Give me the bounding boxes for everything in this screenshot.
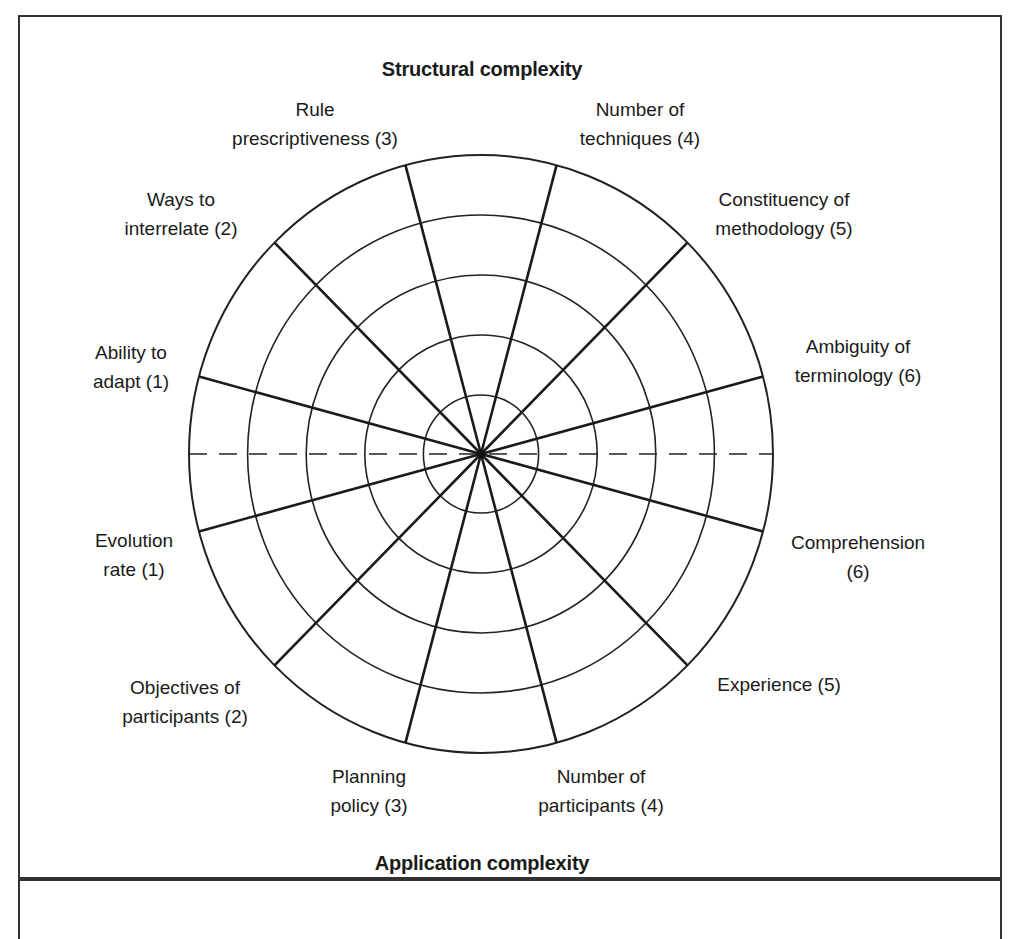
spoke-3 bbox=[481, 165, 557, 454]
label-ability-to-adapt: Ability toadapt (1) bbox=[93, 338, 169, 396]
spoke-9 bbox=[405, 454, 481, 743]
spoke-1 bbox=[481, 377, 763, 454]
spoke-12 bbox=[481, 454, 763, 531]
label-planning-policy: Planningpolicy (3) bbox=[330, 762, 407, 820]
label-rule-prescriptiveness: Ruleprescriptiveness (3) bbox=[232, 95, 398, 153]
label-evolution-rate: Evolutionrate (1) bbox=[95, 526, 173, 584]
label-experience: Experience (5) bbox=[717, 670, 841, 699]
spoke-8 bbox=[275, 454, 481, 665]
spoke-10 bbox=[481, 454, 557, 743]
spoke-4 bbox=[405, 165, 481, 454]
label-comprehension: Comprehension(6) bbox=[791, 528, 925, 586]
spoke-7 bbox=[199, 454, 481, 531]
spoke-6 bbox=[199, 377, 481, 454]
bottom-heading: Application complexity bbox=[282, 852, 682, 875]
spoke-5 bbox=[275, 243, 481, 454]
label-number-of-participants: Number ofparticipants (4) bbox=[538, 762, 664, 820]
top-heading: Structural complexity bbox=[282, 58, 682, 81]
label-ambiguity-of-terminology: Ambiguity ofterminology (6) bbox=[795, 332, 922, 390]
label-ways-to-interrelate: Ways tointerrelate (2) bbox=[125, 185, 238, 243]
center-hub bbox=[477, 450, 485, 458]
spoke-11 bbox=[481, 454, 687, 665]
spoke-2 bbox=[481, 243, 687, 454]
label-constituency-of-methodology: Constituency ofmethodology (5) bbox=[715, 185, 852, 243]
label-objectives-of-participants: Objectives ofparticipants (2) bbox=[122, 673, 248, 731]
label-number-of-techniques: Number oftechniques (4) bbox=[580, 95, 700, 153]
